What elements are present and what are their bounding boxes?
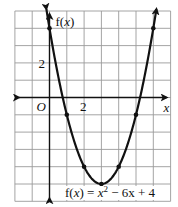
y-axis-label: f(x) <box>56 14 75 29</box>
data-point <box>47 26 52 31</box>
data-point <box>116 164 121 169</box>
origin-label: O <box>37 99 47 114</box>
x-axis-label: x <box>162 100 169 115</box>
data-point <box>151 26 156 31</box>
x-tick-label: 2 <box>80 99 87 114</box>
data-point <box>82 164 87 169</box>
function-graph: f(x) x O 22 f(x) = x2 − 6x + 4 <box>0 0 178 207</box>
data-point <box>65 113 70 118</box>
y-tick-label: 2 <box>39 56 46 71</box>
data-point <box>134 113 139 118</box>
equation-label: f(x) = x2 − 6x + 4 <box>65 184 156 200</box>
